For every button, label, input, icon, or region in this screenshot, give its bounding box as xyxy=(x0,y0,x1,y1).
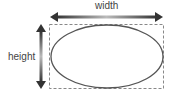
height-label: height xyxy=(8,52,35,62)
width-label: width xyxy=(95,1,118,11)
ellipse-shape xyxy=(51,25,163,88)
width-arrow-icon xyxy=(50,12,163,22)
height-arrow-icon xyxy=(36,24,46,89)
diagram-canvas xyxy=(0,0,173,94)
ellipse-dimension-diagram: width height xyxy=(0,0,173,94)
